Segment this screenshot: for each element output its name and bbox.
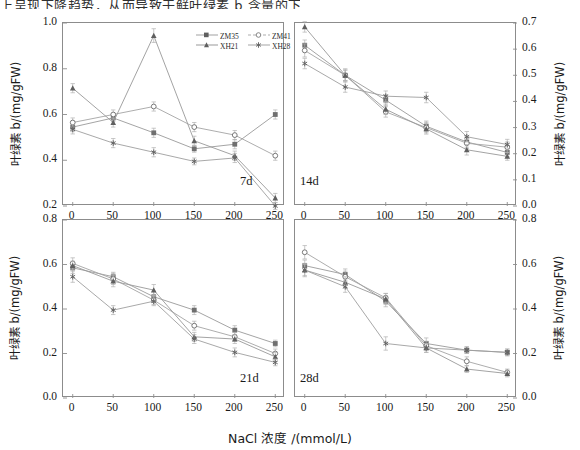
data-point [192, 323, 197, 328]
legend-entry-zm41: ZM41 [248, 31, 300, 41]
legend-label-xh28: XH28 [272, 42, 290, 51]
series-xh21 [70, 261, 278, 361]
data-point [464, 147, 470, 152]
series-layer-14d [295, 23, 517, 206]
y-axis-title: 叶绿素 b/(mg/gFW) [550, 219, 566, 397]
y-tick-label: 0.0 [522, 390, 549, 402]
y-tick-label: 0.4 [522, 93, 549, 105]
legend-marker-filled-triangle-icon [196, 41, 218, 51]
series-zm41 [302, 44, 509, 152]
x-axis-title: NaCl 浓度 /(mmol/L) [0, 428, 580, 447]
data-point [192, 146, 197, 151]
x-tick-label: 0 [288, 401, 320, 413]
data-point [273, 341, 278, 346]
panel-21d: 21d 0.00.20.40.60.8050100150200250叶绿素 b/… [0, 219, 290, 424]
legend-marker-star-icon [248, 41, 270, 51]
x-tick-label: 250 [258, 401, 290, 413]
y-tick-label: 0.2 [30, 346, 57, 358]
series-zm35 [302, 260, 509, 356]
panel-label-14d: 14d [300, 174, 319, 189]
figure-root: 上呈现下降趋势，从而导致干鲜叶绿素 b 含量的下降。 7d 0.20.40.60… [0, 0, 580, 450]
series-zm41 [70, 102, 277, 160]
y-tick-label: 0.4 [30, 301, 57, 313]
y-tick-label: 0.6 [30, 107, 57, 119]
data-point [151, 104, 156, 109]
y-tick-label: 1.0 [30, 15, 57, 27]
series-xh21 [302, 263, 510, 376]
data-point [192, 125, 197, 130]
plot-area-14d [294, 22, 516, 205]
series-zm35 [70, 110, 277, 152]
data-point [464, 359, 469, 364]
data-point [192, 308, 197, 313]
y-tick-label: 0.7 [522, 15, 549, 27]
data-point [302, 48, 307, 53]
y-axis-title: 叶绿素 b/(mg/gFW) [6, 219, 22, 397]
cut-off-body-text: 上呈现下降趋势，从而导致干鲜叶绿素 b 含量的下降。 [0, 0, 300, 9]
y-tick-label: 0.6 [30, 257, 57, 269]
y-tick-label: 0.8 [30, 212, 57, 224]
series-zm41 [302, 246, 509, 376]
y-tick-label: 0.2 [522, 346, 549, 358]
legend-label-zm41: ZM41 [272, 32, 291, 41]
panel-28d: 28d 0.00.20.40.60.8050100150200250叶绿素 b/… [290, 219, 580, 424]
x-tick-label: 100 [369, 401, 401, 413]
panel-label-7d: 7d [240, 174, 253, 189]
y-tick-label: 0.8 [30, 61, 57, 73]
x-tick-label: 150 [177, 401, 209, 413]
data-point [111, 112, 116, 117]
y-tick-label: 0.1 [522, 172, 549, 184]
data-point [302, 24, 308, 29]
y-axis-title: 叶绿素 b/(mg/gFW) [6, 22, 22, 205]
y-tick-label: 0.2 [30, 198, 57, 210]
data-point [302, 250, 307, 255]
legend-marker-open-circle-icon [248, 31, 270, 41]
legend-entry-xh21: XH21 [196, 41, 248, 51]
y-tick-label: 0.3 [522, 120, 549, 132]
legend-entry-xh28: XH28 [248, 41, 300, 51]
series-xh28 [70, 271, 277, 366]
x-tick-label: 250 [490, 401, 522, 413]
series-zm35 [70, 262, 277, 347]
series-xh28 [302, 265, 509, 356]
panel-label-28d: 28d [300, 371, 319, 386]
plot-area-28d [294, 219, 516, 397]
series-layer-28d [295, 220, 517, 398]
y-axis-title: 叶绿素 b/(mg/gFW) [550, 22, 566, 205]
y-tick-label: 0.5 [522, 67, 549, 79]
data-point [232, 328, 237, 333]
y-tick-label: 0.0 [522, 198, 549, 210]
panel-label-21d: 21d [240, 371, 259, 386]
data-point [302, 61, 307, 67]
data-point [151, 130, 156, 135]
y-tick-label: 0.4 [522, 301, 549, 313]
data-point [273, 112, 278, 117]
y-tick-label: 0.2 [522, 146, 549, 158]
data-point [151, 33, 157, 38]
legend-label-xh21: XH21 [220, 42, 238, 51]
y-tick-label: 0.8 [522, 212, 549, 224]
legend-label-zm35: ZM35 [220, 32, 239, 41]
x-tick-label: 50 [96, 401, 128, 413]
data-point [232, 133, 237, 138]
data-point [232, 142, 237, 147]
panel-14d: 14d 0.00.10.20.30.40.50.60.7050100150200… [290, 14, 580, 219]
series-zm41 [70, 258, 277, 358]
x-tick-label: 200 [218, 401, 250, 413]
legend-marker-filled-square-icon [196, 31, 218, 41]
data-point [464, 366, 470, 371]
x-tick-label: 0 [56, 401, 88, 413]
data-point [70, 85, 76, 90]
series-xh28 [70, 125, 277, 210]
panel-grid: 7d 0.20.40.60.81.0050100150200250叶绿素 b/(… [0, 14, 580, 424]
x-tick-label: 200 [450, 401, 482, 413]
x-tick-label: 50 [328, 401, 360, 413]
x-tick-label: 100 [137, 401, 169, 413]
y-tick-label: 0.0 [30, 390, 57, 402]
y-tick-label: 0.6 [522, 257, 549, 269]
legend: ZM35 ZM41 XH21 [196, 31, 300, 51]
data-point [70, 120, 75, 125]
y-tick-label: 0.6 [522, 41, 549, 53]
y-tick-label: 0.4 [30, 152, 57, 164]
data-point [273, 153, 278, 158]
